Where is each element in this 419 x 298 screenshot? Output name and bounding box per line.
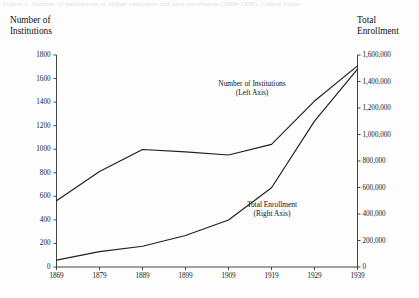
x-tick-label: 1869 [49,272,63,280]
chart-figure: Figure 1. Number of institutions of high… [0,0,419,298]
x-tick-label: 1929 [307,272,321,280]
chart-series [57,66,358,260]
y-tick-label-right: 800,000 [363,157,386,165]
x-tick-label: 1899 [178,272,192,280]
y-tick-label-left: 1800 [36,51,50,59]
y-tick-label-left: 1600 [36,75,50,83]
y-tick-label-right: 1,400,000 [363,78,391,86]
y-tick-label-left: 0 [47,263,51,271]
series-line-2 [57,69,358,260]
y-tick-label-left: 800 [40,169,51,177]
y-tick-label-right: 1,000,000 [363,131,391,139]
y-tick-label-left: 1200 [36,122,50,130]
y-tick-label-right: 1,600,000 [363,51,391,59]
y-tick-label-left: 600 [40,192,51,200]
series-annotation-2: Total Enrollment (Right Axis) [247,201,297,219]
chart-plot-area [0,0,419,298]
y-tick-label-left: 1400 [36,98,50,106]
series-line-1 [57,66,358,201]
y-tick-label-right: 1,200,000 [363,104,391,112]
y-tick-label-left: 1000 [36,145,50,153]
x-tick-label: 1889 [135,272,149,280]
x-tick-label: 1919 [264,272,278,280]
y-tick-label-right: 200,000 [363,237,386,245]
x-tick-label: 1909 [221,272,235,280]
y-tick-label-right: 0 [363,263,367,271]
series-annotation-1: Number of Institutions (Left Axis) [218,80,285,98]
y-tick-label-left: 200 [40,239,51,247]
x-tick-label: 1939 [350,272,364,280]
y-tick-label-right: 600,000 [363,184,386,192]
y-tick-label-right: 400,000 [363,210,386,218]
x-tick-label: 1879 [92,272,106,280]
y-tick-label-left: 400 [40,216,51,224]
chart-axes [54,55,361,270]
